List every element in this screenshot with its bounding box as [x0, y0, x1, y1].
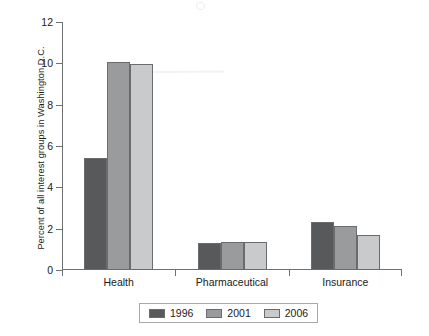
y-axis-tick-label: 12 [41, 16, 53, 28]
legend-label: 1996 [170, 307, 193, 319]
x-axis-tick [289, 270, 290, 276]
x-axis-category-label: Health [103, 276, 133, 288]
bar-pharmaceutical-2006 [244, 242, 267, 270]
bar-chart: Percent of all interest groups in Washin… [0, 0, 429, 336]
legend-item-1996[interactable]: 1996 [149, 307, 193, 319]
x-axis-category-label: Insurance [322, 276, 368, 288]
x-axis-category-label: Pharmaceutical [196, 276, 268, 288]
legend-swatch-icon [264, 309, 280, 318]
legend-item-2001[interactable]: 2001 [206, 307, 250, 319]
y-axis-tick [56, 187, 62, 188]
bar-insurance-1996 [311, 222, 334, 270]
bar-pharmaceutical-1996 [198, 243, 221, 270]
legend-item-2006[interactable]: 2006 [264, 307, 308, 319]
x-axis-tick [62, 270, 63, 276]
y-axis-tick-label: 10 [41, 57, 53, 69]
y-axis-tick-label: 0 [47, 264, 53, 276]
chart-legend: 199620012006 [139, 303, 318, 323]
y-axis-tick [56, 146, 62, 147]
bar-health-2001 [107, 62, 130, 270]
bar-health-2006 [130, 64, 153, 270]
x-axis-tick [175, 270, 176, 276]
y-axis-tick [56, 63, 62, 64]
x-axis-tick [401, 270, 402, 276]
legend-swatch-icon [206, 309, 222, 318]
bar-pharmaceutical-2001 [221, 242, 244, 270]
bar-insurance-2006 [357, 235, 380, 270]
y-axis-tick [56, 22, 62, 23]
y-axis-tick-label: 8 [47, 99, 53, 111]
bar-health-1996 [84, 158, 107, 270]
legend-swatch-icon [149, 309, 165, 318]
y-axis-line [62, 22, 63, 270]
bar-insurance-2001 [334, 226, 357, 270]
legend-label: 2006 [285, 307, 308, 319]
legend-label: 2001 [227, 307, 250, 319]
y-axis-tick-label: 2 [47, 223, 53, 235]
y-axis-tick-label: 4 [47, 181, 53, 193]
y-axis-tick-label: 6 [47, 140, 53, 152]
y-axis-tick [56, 229, 62, 230]
scan-artifact-speck [196, 2, 205, 10]
y-axis-tick [56, 105, 62, 106]
plot-area: 024681012 [62, 22, 402, 270]
